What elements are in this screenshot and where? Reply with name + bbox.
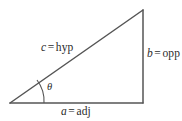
adjacent-equals-sign: =: [67, 105, 77, 117]
theta-angle-label: θ: [47, 82, 52, 93]
hypotenuse-name: hyp: [56, 41, 74, 53]
opposite-side-label: b=opp: [147, 48, 180, 60]
hypotenuse-line: [10, 10, 143, 103]
adjacent-side-label: a=adj: [61, 106, 91, 118]
opposite-variable: b: [147, 47, 153, 59]
adjacent-variable: a: [61, 105, 67, 117]
hypotenuse-equals-sign: =: [46, 41, 56, 53]
hypotenuse-label: c=hyp: [41, 42, 73, 54]
adjacent-name: adj: [76, 105, 90, 117]
triangle-figure: [0, 0, 182, 121]
opposite-equals-sign: =: [153, 47, 163, 59]
opposite-name: opp: [162, 47, 180, 59]
